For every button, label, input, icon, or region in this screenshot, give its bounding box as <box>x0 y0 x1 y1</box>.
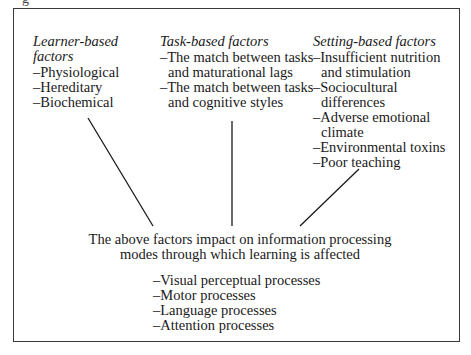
connector-learner <box>88 118 153 226</box>
task-factors-column: Task-based factors –The match between ta… <box>160 34 325 110</box>
task-heading: Task-based factors <box>160 34 325 49</box>
setting-item: –Sociocultural differences <box>313 80 453 110</box>
learner-item: –Hereditary <box>33 80 153 95</box>
mode-item: –Visual perceptual processes <box>153 273 320 288</box>
setting-item: –Environmental toxins <box>313 140 453 155</box>
setting-heading: Setting-based factors <box>313 34 453 49</box>
learner-heading: Learner-based factors <box>33 34 153 64</box>
connector-setting <box>300 169 359 226</box>
impact-line-1: The above factors impact on information … <box>60 232 420 247</box>
processing-modes-list: –Visual perceptual processes –Motor proc… <box>153 273 320 333</box>
impact-line-2: modes through which learning is affected <box>60 247 420 262</box>
task-item: –The match between tasks and maturationa… <box>160 50 325 80</box>
setting-item: –Insufficient nutrition and stimulation <box>313 50 453 80</box>
learner-factors-column: Learner-based factors –Physiological –He… <box>33 34 153 110</box>
learner-item: –Physiological <box>33 65 153 80</box>
impact-statement: The above factors impact on information … <box>60 232 420 262</box>
setting-item: –Poor teaching <box>313 155 453 170</box>
setting-item: –Adverse emotional climate <box>313 110 453 140</box>
mode-item: –Motor processes <box>153 288 320 303</box>
learner-item: –Biochemical <box>33 95 153 110</box>
task-item: –The match between tasks and cognitive s… <box>160 80 325 110</box>
setting-factors-column: Setting-based factors –Insufficient nutr… <box>313 34 453 170</box>
mode-item: –Attention processes <box>153 318 320 333</box>
mode-item: –Language processes <box>153 303 320 318</box>
